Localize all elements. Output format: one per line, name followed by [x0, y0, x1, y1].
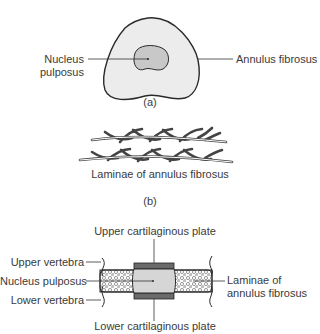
label-line: annulus fibrosus	[227, 287, 307, 300]
caption-b: (b)	[140, 195, 160, 208]
label-laminae-b: Laminae of annulus fibrosus	[60, 168, 260, 181]
label-laminae-c: Laminae of annulus fibrosus	[227, 274, 307, 300]
label-annulus-fibrosus-a: Annulus fibrosus	[236, 53, 317, 66]
label-nucleus-pulposus-a: Nucleus pulposus	[30, 53, 84, 79]
label-nucleus-pulposus-c: Nucleus pulposus	[0, 275, 84, 288]
label-upper-vertebra: Upper vertebra	[0, 256, 84, 269]
label-line: pulposus	[30, 66, 84, 79]
label-upper-cartilaginous-plate: Upper cartilaginous plate	[60, 225, 250, 238]
label-line: Laminae of	[227, 274, 307, 287]
disc-cross-section	[88, 18, 233, 100]
label-lower-cartilaginous-plate: Lower cartilaginous plate	[60, 320, 250, 333]
caption-a: (a)	[140, 96, 160, 109]
label-lower-vertebra: Lower vertebra	[0, 294, 84, 307]
disc-side-view	[86, 239, 225, 321]
label-line: Nucleus	[30, 53, 84, 66]
